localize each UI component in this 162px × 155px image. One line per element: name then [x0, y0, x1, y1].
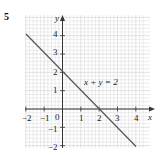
graph: 5 y x x + y = 2 −2 −1 0 1 2 3 4 4 3 2 1 …	[0, 0, 162, 155]
x-tick-labels: −2 −1 0 1 2 3 4	[22, 112, 139, 123]
x-tick-label: 1	[79, 113, 84, 123]
y-axis-arrow-icon	[60, 15, 65, 21]
x-axis-arrow-icon	[149, 107, 155, 112]
question-number: 5	[4, 11, 9, 22]
x-axis-label: x	[147, 112, 152, 122]
y-tick-label: 2	[53, 67, 58, 77]
y-tick-label: −2	[48, 142, 58, 152]
x-tick-label: 0	[55, 112, 60, 122]
x-tick-label: −2	[22, 113, 32, 123]
x-tick-label: 2	[97, 113, 102, 123]
y-tick-label: 1	[53, 85, 58, 95]
y-tick-label: −1	[48, 124, 58, 134]
x-tick-label: 3	[115, 113, 120, 123]
y-tick-label: 4	[53, 29, 58, 39]
x-tick-label: 4	[134, 113, 139, 123]
y-tick-label: 3	[53, 47, 58, 57]
line-label: x + y = 2	[83, 77, 118, 87]
y-axis-label: y	[54, 13, 59, 23]
x-tick-label: −1	[40, 113, 50, 123]
